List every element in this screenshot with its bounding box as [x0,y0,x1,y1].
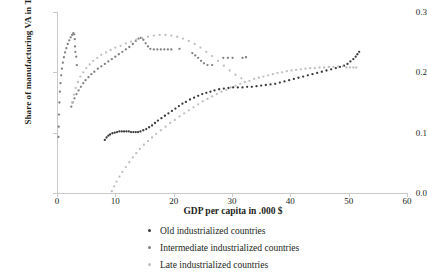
x-tick-label-6: 60 [392,196,422,206]
legend-item-intermediate[interactable]: Intermediate industrialized countries [0,239,427,256]
y-tick-mark-2 [53,72,57,73]
legend-label-late: Late industrialized countries [160,260,268,270]
series-1 [57,32,247,138]
x-tick-label-1: 10 [100,196,130,206]
legend-item-late[interactable]: Late industrialized countries [0,256,427,273]
legend-label-old: Old industrialized countries [160,226,266,236]
y-tick-mark-1 [53,133,57,134]
y-tick-mark-3 [53,12,57,13]
x-tick-label-0: 0 [42,196,72,206]
series-2 [71,34,357,193]
legend-marker-icon [148,246,151,249]
x-tick-label-2: 20 [159,196,189,206]
chart-legend: Old industrialized countries Intermediat… [0,222,427,273]
x-axis-label: GDP per capita in .000 $ [58,206,408,216]
chart-figure: Share of manufacturing VA in Tot VA 0.0 … [0,0,427,274]
y-tick-label-3: 0.3 [381,7,427,17]
legend-item-old[interactable]: Old industrialized countries [0,222,427,239]
y-axis-label: Share of manufacturing VA in Tot VA [23,0,33,141]
y-tick-label-2: 0.2 [381,67,427,77]
legend-marker-icon [148,263,151,266]
series-0 [104,51,361,141]
legend-marker-icon [148,229,151,232]
x-tick-label-4: 40 [275,196,305,206]
x-tick-label-5: 50 [334,196,364,206]
y-tick-label-1: 0.1 [381,128,427,138]
y-axis-line [57,12,58,194]
x-tick-label-3: 30 [217,196,247,206]
legend-label-intermediate: Intermediate industrialized countries [160,243,299,253]
